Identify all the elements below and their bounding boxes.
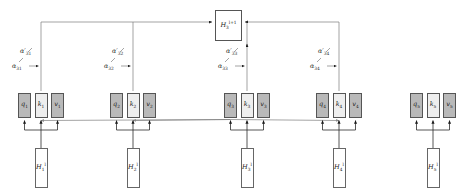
vector-box-q2: q2 (110, 93, 123, 118)
alpha-label-2: α32 (104, 63, 114, 72)
vector-box-v3: v3 (257, 93, 270, 118)
vector-box-k1: k1 (35, 93, 48, 118)
alpha-prime-label-3: α′33 (226, 48, 237, 57)
node-state-label-1: H1l (36, 163, 46, 173)
vector-box-v4: v4 (349, 93, 362, 118)
q-label-3: q3 (227, 101, 234, 110)
q-label-4: q4 (319, 101, 326, 110)
q-label-5: q5 (413, 101, 420, 110)
vector-box-q4: q4 (316, 93, 329, 118)
v-label-5: v5 (446, 101, 452, 110)
node-state-label-4: H4l (334, 163, 344, 173)
node-state-box-5: H5l (427, 148, 440, 188)
v-label-4: v4 (352, 101, 358, 110)
node-state-box-3: H3l (241, 148, 254, 188)
k-label-4: k4 (336, 101, 343, 110)
node-state-label-5: H5l (428, 163, 438, 173)
attention-diagram: H3l+1 q1k1v1H1lα31α′31q2k2v2H2lα32α′32q3… (0, 0, 462, 191)
vector-box-k3: k3 (241, 93, 254, 118)
output-state-box: H3l+1 (215, 10, 242, 41)
alpha-prime-label-1: α′31 (20, 48, 31, 57)
vector-box-q3: q3 (224, 93, 237, 118)
node-state-label-3: H3l (242, 163, 252, 173)
q-label-1: q1 (21, 101, 28, 110)
vector-box-k5: k5 (427, 93, 440, 118)
alpha-prime-label-2: α′32 (112, 48, 123, 57)
node-state-box-2: H2l (127, 148, 140, 188)
node-state-label-2: H2l (128, 163, 138, 173)
v-label-3: v3 (260, 101, 266, 110)
alpha-prime-label-4: α′34 (318, 48, 329, 57)
vector-box-k2: k2 (127, 93, 140, 118)
node-state-box-1: H1l (35, 148, 48, 188)
k-label-5: k5 (430, 101, 437, 110)
vector-box-v1: v1 (51, 93, 64, 118)
vector-box-q1: q1 (18, 93, 31, 118)
node-state-box-4: H4l (333, 148, 346, 188)
v-label-1: v1 (54, 101, 60, 110)
q-label-2: q2 (113, 101, 120, 110)
k-label-1: k1 (38, 101, 45, 110)
vector-box-v5: v5 (443, 93, 456, 118)
alpha-label-1: α31 (12, 63, 22, 72)
vector-box-k4: k4 (333, 93, 346, 118)
alpha-label-3: α33 (218, 63, 228, 72)
v-label-2: v2 (146, 101, 152, 110)
k-label-2: k2 (130, 101, 137, 110)
output-state-label: H3l+1 (220, 21, 236, 31)
k-label-3: k3 (244, 101, 251, 110)
vector-box-q5: q5 (410, 93, 423, 118)
vector-box-v2: v2 (143, 93, 156, 118)
alpha-label-4: α34 (310, 63, 320, 72)
